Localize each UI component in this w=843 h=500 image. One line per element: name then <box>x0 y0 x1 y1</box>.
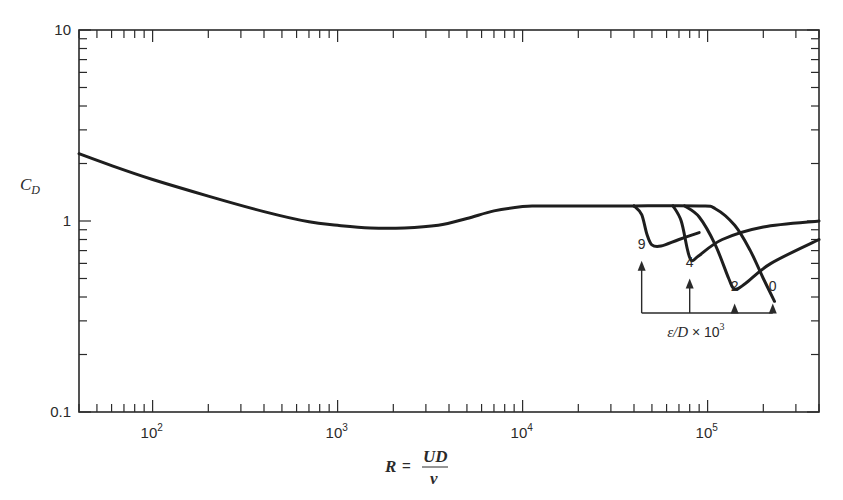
curve-0 <box>79 154 634 229</box>
y-tick-label: 10 <box>54 21 71 38</box>
y-tick-label: 0.1 <box>50 403 71 420</box>
arrow-head-icon <box>686 278 694 288</box>
curve-3 <box>685 206 820 289</box>
x-tick-label: 105 <box>696 422 719 441</box>
x-tick-label: 104 <box>511 422 534 441</box>
axis-ticks: 1021031041051010.1 <box>50 21 819 441</box>
roughness-annotations: 9420ε/D × 103 <box>638 236 777 340</box>
x-axis-label: R = UD ν <box>384 447 448 488</box>
roughness-label: 9 <box>638 236 646 252</box>
drag-coefficient-chart: 1021031041051010.1 9420ε/D × 103 CD R = … <box>0 0 843 500</box>
figure-caption-cropped <box>60 492 820 500</box>
y-axis-label: CD <box>20 175 40 197</box>
y-tick-label: 1 <box>63 212 71 229</box>
svg-text:ν: ν <box>430 469 438 488</box>
arrow-head-icon <box>638 261 646 271</box>
plot-frame <box>79 30 819 412</box>
arrow-head-icon <box>769 303 777 313</box>
plot-border <box>79 30 819 412</box>
roughness-group-label: ε/D × 103 <box>667 321 724 340</box>
svg-text:R: R <box>384 457 396 476</box>
roughness-label: 0 <box>769 278 777 294</box>
x-tick-label: 102 <box>141 422 164 441</box>
data-curves <box>79 154 819 302</box>
roughness-label: 4 <box>686 254 694 270</box>
curve-4 <box>634 206 775 302</box>
svg-text:=: = <box>402 457 411 474</box>
arrow-head-icon <box>731 303 739 313</box>
roughness-label: 2 <box>731 278 739 294</box>
x-tick-label: 103 <box>326 422 349 441</box>
svg-text:UD: UD <box>423 447 448 466</box>
